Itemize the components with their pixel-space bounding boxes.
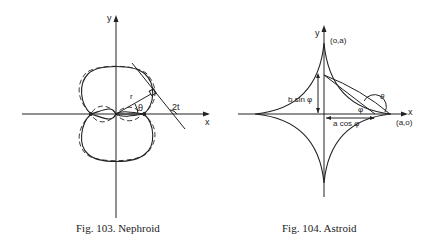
nephroid-lower-lobe	[82, 114, 153, 162]
bsin-label: b sin φ	[288, 95, 312, 104]
astroid-curve	[255, 43, 391, 183]
astroid-x-label: x	[408, 107, 413, 117]
x-axis-arrow-icon	[203, 112, 210, 117]
arrow-down-icon	[316, 108, 320, 113]
nephroid-2t-label: 2t	[172, 102, 180, 112]
nephroid-r-label: r	[130, 92, 133, 101]
x-axis-arrow-icon	[401, 112, 408, 117]
y-axis-arrow-icon	[322, 25, 327, 32]
acos-label: a cos φ	[333, 119, 360, 128]
tangent-line	[324, 75, 375, 114]
figures-canvas: y x r θ 2t y (o,a) x (a,o) b sin φ a cos…	[0, 0, 429, 240]
astroid-top-point-label: (o,a)	[330, 36, 347, 45]
figure-104-caption: Fig. 104. Astroid	[282, 222, 357, 234]
nephroid-figure	[22, 15, 210, 218]
figure-103-caption: Fig. 103. Nephroid	[76, 222, 160, 234]
tangent-line	[132, 63, 185, 129]
y-axis-arrow-icon	[114, 15, 119, 22]
astroid-figure	[238, 25, 408, 197]
nephroid-x-label: x	[205, 117, 210, 127]
radius-line	[116, 94, 151, 114]
astroid-y-label: y	[315, 28, 320, 38]
arrow-left-icon	[326, 116, 331, 120]
astroid-theta-label: θ	[380, 92, 385, 101]
nephroid-y-label: y	[107, 13, 112, 23]
astroid-right-point-label: (a,o)	[396, 118, 413, 127]
nephroid-theta-label: θ	[138, 103, 143, 113]
phi-label: φ	[358, 105, 363, 114]
